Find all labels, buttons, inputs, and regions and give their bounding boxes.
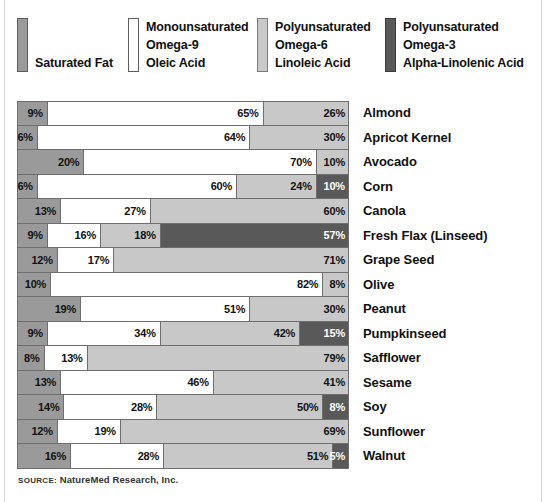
bar-segment-value: 71% [324, 254, 345, 266]
bar-segment-value: 70% [290, 156, 311, 168]
bar-segment-value: 19% [94, 425, 115, 437]
bar-segment-omega-6: 69% [120, 420, 349, 444]
bar-segment-value: 65% [237, 107, 258, 119]
bar-row: 14%28%50%8% [17, 395, 349, 420]
bar-segment-value: 20% [58, 156, 79, 168]
bar-segment-omega-6: 18% [100, 224, 160, 248]
bar-segment-saturated-fat: 16% [17, 444, 70, 469]
bar-row: 9%34%42%15% [17, 322, 349, 347]
bar-segment-value: 13% [35, 376, 56, 388]
bar-segment-value: 27% [124, 205, 145, 217]
legend-item-omega-9: Monounsaturated Omega-9 Oleic Acid [128, 18, 249, 72]
bar-segment-saturated-fat: 12% [17, 248, 57, 272]
bar-segment-saturated-fat: 13% [17, 371, 60, 395]
bar-row-label: Almond [363, 101, 543, 126]
bar-segment-omega-6: 79% [87, 346, 349, 370]
bar-row-label: Safflower [363, 346, 543, 371]
bar-segment-omega-9: 64% [37, 126, 249, 150]
bar-segment-value: 34% [134, 327, 155, 339]
bar-segment-omega-9: 46% [60, 371, 213, 395]
bar-segment-value: 41% [324, 376, 345, 388]
bar-segment-value: 17% [88, 254, 109, 266]
bar-segment-value: 12% [31, 254, 52, 266]
bar-row: 16%28%51%5% [17, 444, 349, 469]
bar-segment-value: 6% [17, 180, 33, 192]
source-text: NatureMed Research, Inc. [57, 474, 178, 485]
bar-row: 9%16%18%57% [17, 224, 349, 249]
legend-line-3: Oleic Acid [146, 54, 249, 72]
legend-line-2: Omega-3 [403, 36, 524, 54]
bar-segment-omega-6: 41% [213, 371, 349, 395]
bar-segment-value: 51% [224, 303, 245, 315]
bar-segment-omega-6: 42% [160, 322, 299, 346]
bar-segment-value: 8% [329, 401, 345, 413]
bar-row-label: Apricot Kernel [363, 126, 543, 151]
bar-segment-saturated-fat: 10% [17, 273, 50, 297]
bar-segment-value: 15% [324, 327, 345, 339]
bar-segment-saturated-fat: 19% [17, 297, 80, 321]
bar-row-label: Avocado [363, 150, 543, 175]
bar-segment-value: 9% [27, 229, 43, 241]
bar-segment-value: 60% [324, 205, 345, 217]
bar-row-label: Grape Seed [363, 248, 543, 273]
legend-label-omega-6: Polyunsaturated Omega-6 Linoleic Acid [275, 18, 371, 72]
bar-segment-omega-3: 5% [332, 444, 349, 469]
bar-segment-value: 82% [297, 278, 318, 290]
bar-row: 20%70%10% [17, 150, 349, 175]
bar-segment-value: 57% [324, 229, 345, 241]
bar-segment-value: 9% [27, 327, 43, 339]
legend-line-2 [35, 36, 113, 54]
bar-segment-saturated-fat: 9% [17, 224, 47, 248]
bar-segment-value: 42% [274, 327, 295, 339]
legend-line-3: Saturated Fat [35, 54, 113, 72]
bar-segment-omega-6: 8% [322, 273, 349, 297]
bar-segment-saturated-fat: 13% [17, 199, 60, 223]
legend-swatch-omega-3-icon [385, 18, 396, 72]
legend-line-3: Linoleic Acid [275, 54, 371, 72]
bar-segment-saturated-fat: 20% [17, 150, 83, 174]
source-note: SOURCE: NatureMed Research, Inc. [18, 474, 178, 485]
chart-row-label-column: AlmondApricot KernelAvocadoCornCanolaFre… [363, 101, 543, 469]
bar-segment-omega-6: 50% [156, 395, 322, 419]
bar-segment-value: 16% [75, 229, 96, 241]
bar-segment-value: 8% [329, 278, 345, 290]
legend-item-saturated-fat: Saturated Fat [17, 18, 113, 72]
bar-segment-value: 8% [24, 352, 40, 364]
bar-row-label: Corn [363, 175, 543, 200]
bar-segment-omega-9: 28% [63, 395, 156, 419]
bar-segment-omega-9: 19% [57, 420, 120, 444]
chart-legend: Saturated Fat Monounsaturated Omega-9 Ol… [0, 0, 549, 92]
bar-segment-value: 19% [55, 303, 76, 315]
bar-segment-omega-9: 70% [83, 150, 315, 174]
bar-segment-value: 5% [329, 450, 345, 462]
bar-segment-omega-6: 10% [316, 150, 349, 174]
bar-segment-saturated-fat: 12% [17, 420, 57, 444]
bar-segment-omega-9: 82% [50, 273, 322, 297]
bar-segment-omega-3: 57% [160, 224, 349, 248]
bar-segment-omega-9: 60% [37, 175, 236, 199]
bar-segment-value: 13% [35, 205, 56, 217]
bar-row: 9%65%26% [17, 101, 349, 126]
bar-segment-omega-6: 71% [113, 248, 349, 272]
bar-segment-value: 50% [297, 401, 318, 413]
bar-row: 6%64%30% [17, 126, 349, 151]
bar-segment-omega-6: 30% [249, 126, 349, 150]
bar-segment-value: 28% [138, 450, 159, 462]
bar-segment-value: 12% [31, 425, 52, 437]
bar-row-label: Canola [363, 199, 543, 224]
source-prefix: SOURCE: [18, 476, 57, 485]
bar-segment-omega-9: 51% [80, 297, 249, 321]
bar-segment-value: 24% [290, 180, 311, 192]
bar-segment-saturated-fat: 6% [17, 175, 37, 199]
legend-label-saturated-fat: Saturated Fat [35, 18, 113, 72]
bar-segment-omega-9: 27% [60, 199, 150, 223]
bar-row: 6%60%24%10% [17, 175, 349, 200]
bar-row-label: Pumpkinseed [363, 322, 543, 347]
legend-label-omega-3: Polyunsaturated Omega-3 Alpha-Linolenic … [403, 18, 524, 72]
bar-segment-saturated-fat: 9% [17, 322, 47, 346]
bar-segment-omega-9: 13% [44, 346, 87, 370]
legend-swatch-omega-6-icon [257, 18, 268, 72]
bar-row-label: Sesame [363, 371, 543, 396]
bar-segment-saturated-fat: 14% [17, 395, 63, 419]
bar-segment-value: 9% [27, 107, 43, 119]
